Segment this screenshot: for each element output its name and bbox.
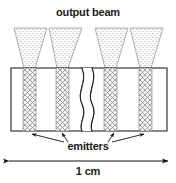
output-beam-4: [130, 28, 163, 68]
emitter-stripe-1: [23, 68, 36, 131]
output-beam-title: output beam: [0, 7, 176, 18]
output-beam-2: [49, 28, 82, 68]
emitter-stripe-4: [139, 68, 152, 131]
output-beam-1: [14, 28, 47, 68]
scale-label: 1 cm: [0, 166, 176, 177]
emitter-stripe-2: [56, 68, 69, 131]
diode-bar-body: [11, 68, 167, 131]
emitters-label: emitters: [0, 141, 176, 152]
output-beam-3: [95, 28, 128, 68]
emitter-stripe-3: [104, 68, 117, 131]
output-beam-group: [14, 28, 163, 68]
diagram-canvas: [0, 0, 176, 183]
laser-bar-diagram: output beam emitters 1 cm: [0, 0, 176, 183]
